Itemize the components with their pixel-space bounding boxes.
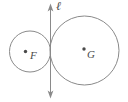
- center-point-g: [82, 47, 85, 50]
- geometry-figure: F G ℓ: [0, 0, 128, 102]
- geometry-canvas: [0, 0, 128, 102]
- center-point-f: [24, 50, 27, 53]
- label-tangent-line: ℓ: [56, 0, 61, 12]
- label-f: F: [30, 50, 37, 61]
- label-g: G: [87, 49, 95, 60]
